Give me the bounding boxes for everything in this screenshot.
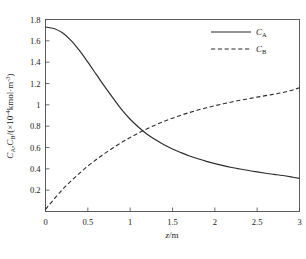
x-tick-label: 2 xyxy=(213,217,217,227)
x-tick-label: 2.5 xyxy=(252,217,263,227)
y-title-unit: kmol·m xyxy=(5,82,15,111)
x-axis-title-rest: /m xyxy=(169,230,179,240)
legend-label-ca: CA xyxy=(256,27,267,38)
chart-figure: 00.511.522.53 0.20.40.60.811.21.41.61.8 … xyxy=(0,0,306,259)
legend: CA CB xyxy=(211,27,267,55)
legend-ca-sub: A xyxy=(262,31,267,38)
y-title-close: ) xyxy=(5,73,15,76)
chart-svg: 00.511.522.53 0.20.40.60.811.21.41.61.8 … xyxy=(0,0,306,259)
x-axis-tick-labels: 00.511.522.53 xyxy=(43,217,301,227)
figure-caption xyxy=(0,250,306,259)
y-tick-label: 0.8 xyxy=(30,121,41,131)
y-axis-ticks xyxy=(46,20,50,191)
y-tick-label: 1.2 xyxy=(30,79,41,89)
y-axis-tick-labels: 0.20.40.60.811.21.41.61.8 xyxy=(30,15,41,196)
y-tick-label: 1.6 xyxy=(30,36,41,46)
x-tick-label: 0.5 xyxy=(83,217,94,227)
y-tick-label: 1.8 xyxy=(30,15,41,25)
x-tick-label: 3 xyxy=(297,217,301,227)
x-tick-label: 0 xyxy=(43,217,47,227)
y-tick-label: 1.4 xyxy=(30,57,41,67)
y-axis-title: CA,CB/(×10-4kmol·m-3) xyxy=(4,73,16,158)
legend-label-cb: CB xyxy=(256,44,267,55)
x-axis-title: z/m xyxy=(164,230,178,240)
x-tick-label: 1 xyxy=(128,217,132,227)
y-tick-label: 0.6 xyxy=(30,143,41,153)
legend-cb-sub: B xyxy=(262,48,267,55)
x-axis-ticks xyxy=(46,208,300,212)
y-tick-label: 1 xyxy=(36,100,40,110)
x-tick-label: 1.5 xyxy=(167,217,178,227)
y-tick-label: 0.2 xyxy=(30,185,41,195)
y-tick-label: 0.4 xyxy=(30,164,41,174)
